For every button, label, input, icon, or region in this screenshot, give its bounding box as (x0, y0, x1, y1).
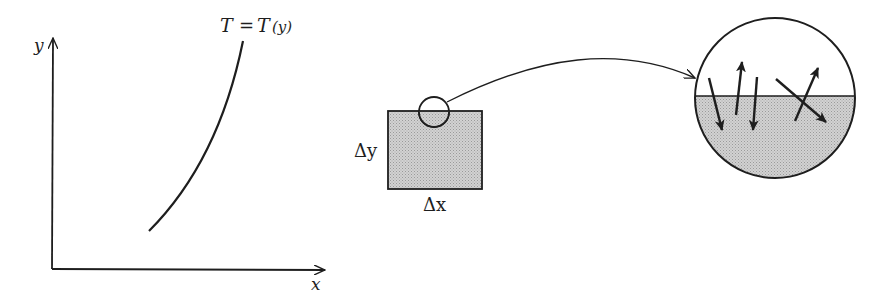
magnify-connector-arrow (447, 59, 695, 102)
width-label: Δx (423, 194, 446, 215)
temperature-profile-graph: y x T = T (y) (33, 14, 325, 294)
x-axis (52, 269, 325, 270)
svg-text:=: = (239, 15, 254, 36)
svg-text:T: T (257, 14, 271, 36)
diagram-canvas: y x T = T (y) Δy Δx (0, 0, 890, 305)
x-axis-label: x (311, 274, 321, 294)
svg-text:(y): (y) (272, 18, 292, 36)
y-axis (52, 38, 53, 269)
temperature-curve (149, 41, 243, 231)
height-label: Δy (354, 140, 378, 161)
magnified-view (690, 18, 860, 186)
fluid-element: Δy Δx (354, 97, 482, 215)
curve-label: T = T (y) (220, 14, 292, 36)
y-axis-label: y (33, 35, 44, 55)
magnified-lower-shade (690, 96, 860, 186)
svg-text:T: T (220, 14, 234, 36)
